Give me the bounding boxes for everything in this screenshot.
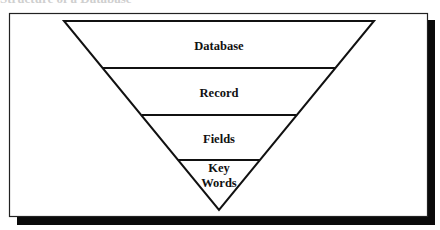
level-keywords-label-line1: Key bbox=[208, 161, 230, 175]
level-record-label: Record bbox=[200, 86, 239, 100]
level-database-label: Database bbox=[194, 39, 244, 53]
level-fields-label: Fields bbox=[203, 132, 235, 146]
level-keywords-label-line2: Words bbox=[201, 176, 237, 190]
database-hierarchy-diagram: Database Record Fields Key Words bbox=[0, 0, 440, 230]
